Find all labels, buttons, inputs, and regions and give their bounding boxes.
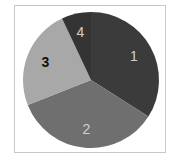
slice-label-1: 1 — [130, 49, 138, 63]
slice-label-4: 4 — [76, 25, 84, 39]
slice-label-2: 2 — [82, 122, 90, 136]
pie-chart — [0, 0, 171, 165]
slice-label-3: 3 — [42, 55, 50, 69]
